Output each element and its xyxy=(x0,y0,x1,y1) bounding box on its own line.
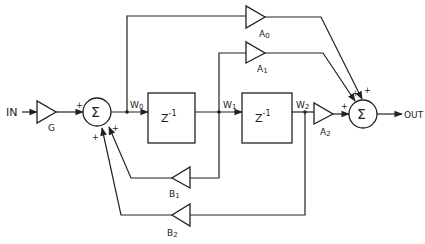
b2-label: B2 xyxy=(167,228,178,239)
coef-a0-amplifier: A0 xyxy=(246,6,270,40)
input-summer: Σ xyxy=(83,98,111,126)
delay-box-2 xyxy=(242,93,292,143)
delay-block-1: Z-1 xyxy=(148,93,195,143)
node-w2-label: W2 xyxy=(296,100,309,111)
a1-label: A1 xyxy=(257,64,268,75)
coef-b2-amplifier: B2 xyxy=(167,204,190,239)
input-label: IN xyxy=(6,106,17,119)
sum1-sign-b2: + xyxy=(92,133,99,142)
biquad-filter-diagram: IN G + Σ + + W0 Z-1 W1 Z-1 W2 A2 + xyxy=(0,0,425,244)
sigma-icon: Σ xyxy=(91,104,100,120)
gain-label: G xyxy=(48,123,55,133)
a0-label: A0 xyxy=(259,29,270,40)
b1-label: B1 xyxy=(169,189,180,200)
sum2-sign-a2: + xyxy=(341,102,348,111)
b1-triangle-icon xyxy=(172,167,190,188)
sum1-sign-b1: + xyxy=(112,124,119,133)
gain-g-amplifier: G xyxy=(37,101,56,133)
a2-label: A2 xyxy=(320,127,331,138)
a2-triangle-icon xyxy=(314,103,333,124)
a1-triangle-icon xyxy=(246,42,265,63)
coef-a1-amplifier: A1 xyxy=(246,42,268,75)
node-w1-label: W1 xyxy=(223,100,236,111)
gain-triangle-icon xyxy=(37,101,56,123)
node-w0-label: W0 xyxy=(130,100,143,111)
coef-a2-amplifier: A2 xyxy=(314,103,333,138)
delay-box-1 xyxy=(148,93,195,143)
output-summer: Σ xyxy=(349,100,377,128)
sum1-sign-in: + xyxy=(76,101,83,110)
sum2-sign-a1: + xyxy=(352,89,359,98)
coef-b1-amplifier: B1 xyxy=(169,167,190,200)
a0-to-out-wire xyxy=(265,17,362,99)
sigma-icon: Σ xyxy=(357,106,366,122)
a0-triangle-icon xyxy=(246,6,265,28)
b2-triangle-icon xyxy=(172,204,190,226)
output-label: OUT xyxy=(404,110,424,120)
sum2-sign-a0: + xyxy=(364,86,371,95)
delay-block-2: Z-1 xyxy=(242,93,292,143)
